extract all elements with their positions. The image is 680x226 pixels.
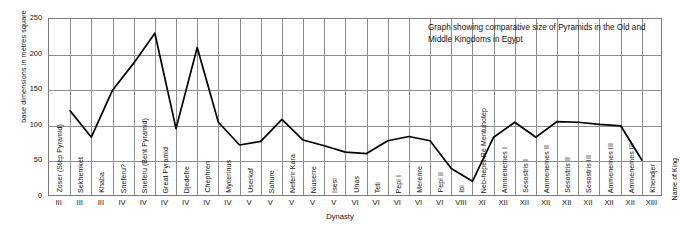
dynasty-tick-7: IV — [196, 198, 217, 207]
data-line — [49, 19, 663, 197]
dynasty-tick-8: IV — [217, 198, 238, 207]
dynasty-tick-26: XII — [598, 198, 619, 207]
pyramid-size-chart: base dimensions in metres square 2502001… — [0, 0, 680, 226]
y-tick-150: 150 — [16, 85, 42, 93]
dynasty-tick-17: VI — [408, 198, 429, 207]
y-tick-50: 50 — [16, 156, 42, 164]
dynasty-tick-10: V — [260, 198, 281, 207]
dynasty-tick-5: IV — [154, 198, 175, 207]
dynasty-tick-25: XII — [577, 198, 598, 207]
y-tick-200: 200 — [16, 50, 42, 58]
dynasty-tick-21: XII — [493, 198, 514, 207]
name-of-king-label: Name of King — [671, 158, 678, 200]
dynasty-tick-2: III — [90, 198, 111, 207]
dynasty-tick-19: VIII — [450, 198, 471, 207]
dynasty-tick-28: XIII — [641, 198, 662, 207]
dynasty-tick-11: V — [281, 198, 302, 207]
dynasty-tick-27: XII — [620, 198, 641, 207]
dynasty-axis-row: IIIIIIIIIIVIVIVIVIVIVVVVVVVIVIVIVIVIVIII… — [48, 197, 662, 213]
dynasty-tick-3: IV — [112, 198, 133, 207]
dynasty-tick-16: VI — [387, 198, 408, 207]
y-tick-100: 100 — [16, 121, 42, 129]
dynasty-tick-1: III — [69, 198, 90, 207]
chart-annotation: Graph showing comparative size of Pyrami… — [428, 22, 664, 45]
dynasty-tick-22: XII — [514, 198, 535, 207]
dynasty-tick-18: VI — [429, 198, 450, 207]
dynasty-tick-4: IV — [133, 198, 154, 207]
series-polyline — [70, 33, 642, 181]
dynasty-tick-9: V — [239, 198, 260, 207]
x-axis-title: Dynasty — [0, 212, 680, 221]
dynasty-tick-0: III — [48, 198, 69, 207]
y-tick-0: 0 — [16, 192, 42, 200]
dynasty-tick-6: IV — [175, 198, 196, 207]
y-tick-250: 250 — [16, 14, 42, 22]
dynasty-tick-12: V — [302, 198, 323, 207]
dynasty-tick-20: XI — [471, 198, 492, 207]
dynasty-tick-14: VI — [344, 198, 365, 207]
dynasty-tick-15: VI — [366, 198, 387, 207]
dynasty-tick-24: XII — [556, 198, 577, 207]
dynasty-tick-13: V — [323, 198, 344, 207]
dynasty-tick-23: XII — [535, 198, 556, 207]
